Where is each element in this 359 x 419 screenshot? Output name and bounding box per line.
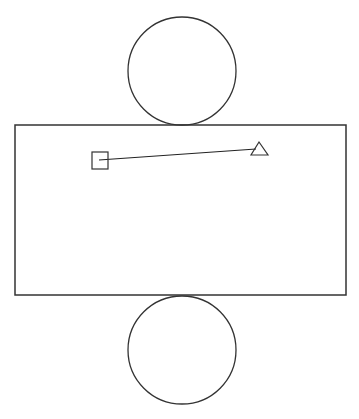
bottom-circle [128,296,236,404]
connector-line [99,149,256,160]
top-circle [128,17,236,125]
diagram-canvas [0,0,359,419]
lateral-rectangle [15,125,346,295]
cylinder-net-diagram [0,0,359,419]
triangle-marker-icon [251,142,268,155]
